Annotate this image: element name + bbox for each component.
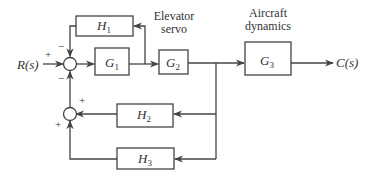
block-diagram: R(s) + − − G1 H1 Elevator servo G2 Aircr…	[0, 0, 372, 177]
sign-plus-right: +	[79, 94, 85, 106]
summing-junction-1	[64, 58, 77, 71]
wire-h1-s1	[70, 26, 76, 57]
caption-dynamics: dynamics	[245, 19, 291, 33]
caption-servo: servo	[161, 22, 187, 36]
sign-plus-input: +	[45, 48, 51, 60]
summing-junction-2	[64, 108, 77, 121]
wire-h3-s2	[70, 121, 117, 159]
caption-aircraft: Aircraft	[249, 6, 288, 20]
sign-plus-bottom: +	[55, 118, 61, 130]
caption-elevator: Elevator	[154, 9, 195, 23]
output-label: C(s)	[336, 55, 358, 70]
wire-tap-h1	[134, 26, 145, 64]
sign-minus-top: −	[58, 40, 64, 52]
input-label: R(s)	[16, 57, 39, 72]
sign-minus-bottom: −	[58, 72, 64, 84]
